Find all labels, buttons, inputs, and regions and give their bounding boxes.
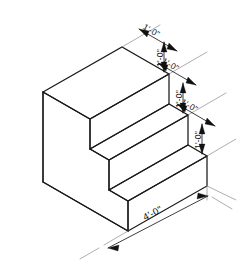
dim-label-riser-1: 1'-0" [155, 49, 165, 67]
isometric-step-block-drawing: 1'-0" 1'-0" 1'-0" 1'-0" [0, 0, 236, 274]
dim-label-riser-2: 1'-0" [174, 90, 184, 108]
isometric-drawing-canvas: 1'-0" 1'-0" 1'-0" 1'-0" [0, 0, 236, 274]
dim-label-riser-3: 1'-0" [193, 131, 203, 149]
